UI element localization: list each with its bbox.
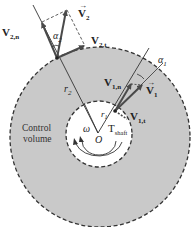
label-control-volume-2: volume — [23, 134, 52, 144]
label-omega: ω — [83, 123, 90, 134]
label-alpha2: α2 — [53, 30, 62, 44]
label-alpha1: α1 — [158, 54, 167, 68]
vector-bar-v1: → — [147, 78, 155, 87]
label-v2n: V2,n — [2, 26, 19, 41]
point-r2 — [55, 56, 59, 60]
label-control-volume-1: Control — [22, 123, 51, 133]
v2-vector — [57, 11, 66, 58]
control-volume-diagram: V2 → V2,n α2 V2,t r2 α1 V1,n V1 → V1,t r… — [0, 0, 192, 227]
point-r1 — [113, 109, 117, 113]
label-origin: O — [95, 134, 102, 145]
vector-bar-v2: → — [79, 1, 87, 10]
